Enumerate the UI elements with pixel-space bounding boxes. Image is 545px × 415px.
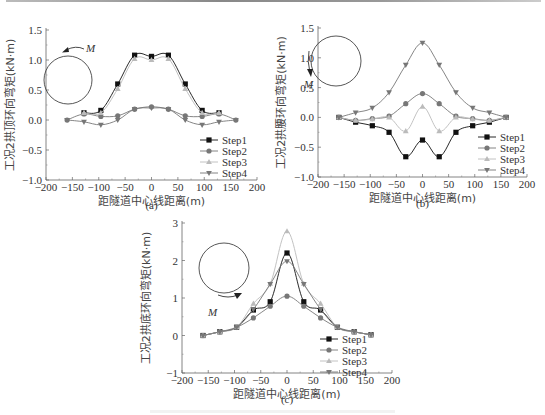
data-point-square xyxy=(268,299,273,304)
legend-label: Step4 xyxy=(500,164,526,176)
legend-marker-triangle-down xyxy=(206,171,212,176)
y-axis-title: 工况2拱腰环向弯矩(kN·m) xyxy=(274,36,288,168)
data-point-circle xyxy=(268,304,273,309)
y-tick-label: −1.0 xyxy=(22,174,42,186)
x-tick-label: 200 xyxy=(249,181,266,193)
legend-label: Step4 xyxy=(342,366,368,378)
legend-marker-triangle-up xyxy=(326,358,332,363)
y-tick-label: 0.0 xyxy=(300,111,314,123)
legend: Step1Step2Step3Step4 xyxy=(200,134,248,179)
data-point-circle xyxy=(183,113,188,118)
data-point-circle xyxy=(420,91,425,96)
x-tick-label: 0 xyxy=(420,178,426,190)
y-tick-label: −0.5 xyxy=(22,144,42,156)
x-tick-label: −150 xyxy=(61,181,84,193)
data-point-circle xyxy=(437,101,442,106)
x-tick-label: 50 xyxy=(443,178,455,190)
series-step4 xyxy=(200,259,374,338)
y-tick-label: −0.5 xyxy=(294,141,314,153)
legend-marker-triangle-up xyxy=(484,156,490,161)
panel-label: (b) xyxy=(416,197,429,210)
data-point-triangle-up xyxy=(284,228,290,233)
data-point-triangle-down xyxy=(369,106,375,111)
data-point-square xyxy=(403,154,408,159)
chart-panel-2: −200−150−100−50050100150200−1.0−0.50.00.… xyxy=(274,22,536,210)
series-step3 xyxy=(336,104,509,134)
series-step4 xyxy=(64,106,239,128)
data-point-square xyxy=(470,123,475,128)
moment-label: M xyxy=(85,42,96,54)
legend-marker-square xyxy=(326,336,331,341)
data-point-square xyxy=(437,154,442,159)
y-tick-label: 2 xyxy=(173,255,179,267)
x-tick-label: −100 xyxy=(359,178,382,190)
figure-caption-faint xyxy=(150,410,395,413)
legend: Step1Step2Step3Step4 xyxy=(320,333,368,378)
y-axis-title: 工况2拱顶环向弯矩(kN·m) xyxy=(3,39,17,171)
legend: Step1Step2Step3Step4 xyxy=(478,131,526,176)
legend-marker-square xyxy=(484,134,489,139)
tunnel-section-inset: M xyxy=(199,243,249,318)
legend-marker-square xyxy=(206,137,211,142)
x-tick-label: −50 xyxy=(117,181,135,193)
y-tick-label: 1.0 xyxy=(28,54,42,66)
y-tick-label: 3 xyxy=(173,217,179,229)
data-point-square xyxy=(420,137,425,142)
x-tick-label: 0 xyxy=(284,374,290,386)
data-point-circle xyxy=(115,113,120,118)
data-point-square xyxy=(284,250,289,255)
x-tick-label: 100 xyxy=(196,181,213,193)
y-tick-label: 0.0 xyxy=(28,114,42,126)
y-tick-label: 0 xyxy=(173,330,179,342)
panel-label: (a) xyxy=(145,199,158,212)
y-axis-title: 工况2拱底环向弯矩(kN·m) xyxy=(139,232,153,364)
y-tick-label: 1.5 xyxy=(300,22,314,34)
x-tick-label: −150 xyxy=(197,374,220,386)
legend-label: Step4 xyxy=(222,167,248,179)
y-tick-label: 0.5 xyxy=(28,84,42,96)
figure-canvas: −200−150−100−50050100150200−1.0−0.50.00.… xyxy=(0,0,545,415)
x-tick-label: 150 xyxy=(493,178,510,190)
x-tick-label: −50 xyxy=(388,178,406,190)
data-point-square xyxy=(301,299,306,304)
y-tick-label: 1.5 xyxy=(28,24,42,36)
chart-panel-1: −200−150−100−50050100150200−1.0−0.50.00.… xyxy=(3,24,266,212)
x-tick-label: 150 xyxy=(222,181,239,193)
x-tick-label: 50 xyxy=(172,181,184,193)
x-tick-label: −150 xyxy=(333,178,356,190)
legend-marker-circle xyxy=(326,347,331,352)
data-point-circle xyxy=(318,315,323,320)
tunnel-circle-icon xyxy=(44,56,92,104)
y-tick-label: −1.0 xyxy=(294,171,314,183)
data-point-square xyxy=(453,130,458,135)
legend-marker-circle xyxy=(206,148,211,153)
chart-panel-3: −200−150−100−50050100150200−10123距隧道中心线距… xyxy=(139,217,401,406)
x-tick-label: 200 xyxy=(384,374,401,386)
x-tick-label: 200 xyxy=(519,178,536,190)
legend-marker-circle xyxy=(484,145,489,150)
data-point-square xyxy=(370,123,375,128)
x-tick-label: −100 xyxy=(87,181,110,193)
data-point-triangle-down xyxy=(199,123,205,128)
data-point-circle xyxy=(403,101,408,106)
moment-arrow-icon xyxy=(66,47,84,50)
moment-label: M xyxy=(303,78,314,90)
x-tick-label: 100 xyxy=(467,178,484,190)
data-point-triangle-down xyxy=(470,106,476,111)
moment-arrow-icon xyxy=(218,295,238,297)
moment-label: M xyxy=(207,306,218,318)
tunnel-section-inset: M xyxy=(44,42,96,104)
tunnel-circle-icon xyxy=(199,243,249,293)
y-tick-label: 1 xyxy=(173,292,179,304)
series-step3 xyxy=(200,228,374,337)
panel-label: (c) xyxy=(281,393,294,406)
x-tick-label: 0 xyxy=(149,181,155,193)
x-tick-label: 50 xyxy=(308,374,320,386)
data-point-square xyxy=(386,130,391,135)
x-tick-label: −100 xyxy=(223,374,246,386)
data-point-circle xyxy=(301,304,306,309)
legend-marker-triangle-up xyxy=(206,159,212,164)
data-point-triangle-down xyxy=(98,123,104,128)
y-tick-label: −1 xyxy=(166,367,178,379)
x-tick-label: −50 xyxy=(252,374,270,386)
